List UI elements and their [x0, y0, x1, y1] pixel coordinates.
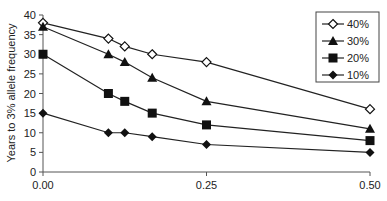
data-point-marker-icon: [39, 109, 48, 118]
data-point-marker-icon: [366, 136, 375, 145]
y-tick-label: 20: [24, 88, 36, 100]
legend-label: 20%: [347, 52, 369, 64]
y-tick-label: 25: [24, 68, 36, 80]
data-point-marker-icon: [120, 128, 129, 137]
data-point-marker-icon: [148, 50, 157, 59]
legend-label: 40%: [347, 18, 369, 30]
data-point-marker-icon: [120, 42, 129, 51]
data-point-marker-icon: [202, 140, 211, 149]
y-tick-label: 30: [24, 48, 36, 60]
x-tick-label: 0.00: [32, 179, 53, 191]
y-tick-label: 15: [24, 107, 36, 119]
data-point-marker-icon: [120, 97, 129, 106]
data-point-marker-icon: [202, 58, 211, 67]
data-point-marker-icon: [120, 57, 130, 66]
y-ticks: 0510152025303540: [24, 9, 43, 178]
data-point-marker-icon: [147, 73, 157, 82]
y-tick-label: 35: [24, 29, 36, 41]
y-tick-label: 5: [30, 146, 36, 158]
data-point-marker-icon: [202, 120, 211, 129]
legend-label: 30%: [347, 35, 369, 47]
y-tick-label: 40: [24, 9, 36, 21]
legend: 40%30%20%10%: [316, 12, 379, 82]
legend-label: 10%: [347, 69, 369, 81]
data-point-marker-icon: [366, 148, 375, 157]
data-point-marker-icon: [366, 105, 375, 114]
y-tick-label: 10: [24, 127, 36, 139]
data-point-marker-icon: [104, 128, 113, 137]
data-point-marker-icon: [202, 96, 212, 105]
y-tick-label: 0: [30, 166, 36, 178]
data-point-marker-icon: [103, 49, 113, 58]
line-chart: 0510152025303540 0.00 0.25 0.50 Years to…: [0, 0, 387, 201]
y-axis-title: Years to 3% allele frequency: [5, 23, 17, 163]
data-point-marker-icon: [104, 34, 113, 43]
series-10pct: [39, 109, 375, 157]
data-point-marker-icon: [148, 132, 157, 141]
x-ticks: 0.00 0.25 0.50: [32, 172, 380, 191]
data-point-marker-icon: [104, 89, 113, 98]
data-point-marker-icon: [148, 109, 157, 118]
data-point-marker-icon: [39, 50, 48, 59]
x-tick-label: 0.25: [196, 179, 217, 191]
legend-marker-icon: [329, 54, 338, 63]
x-tick-label: 0.50: [359, 179, 380, 191]
